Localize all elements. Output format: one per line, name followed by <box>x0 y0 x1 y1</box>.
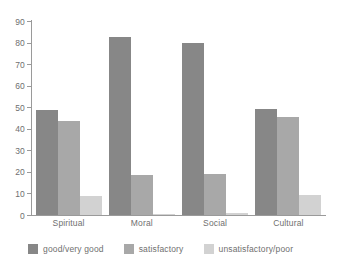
x-axis-line <box>31 215 326 216</box>
bar-group <box>255 21 321 215</box>
bar <box>204 174 226 215</box>
x-axis-label-social: Social <box>179 219 252 228</box>
bar <box>153 214 175 215</box>
legend-item[interactable]: good/very good <box>28 244 104 254</box>
legend-label: unsatisfactory/poor <box>219 245 294 254</box>
y-axis-tick-label: 20 <box>15 168 25 177</box>
bar <box>255 109 277 215</box>
legend-item[interactable]: satisfactory <box>124 244 184 254</box>
y-axis-tick-label: 60 <box>15 82 25 91</box>
legend-item[interactable]: unsatisfactory/poor <box>204 244 294 254</box>
bar-group <box>109 21 175 215</box>
y-axis-tick-label: 40 <box>15 125 25 134</box>
x-axis-label-cultural: Cultural <box>252 219 325 228</box>
x-axis-label-spiritual: Spiritual <box>32 219 105 228</box>
x-axis-label-moral: Moral <box>105 219 178 228</box>
y-axis-tick-label: 50 <box>15 103 25 112</box>
legend-label: satisfactory <box>139 245 184 254</box>
bar <box>80 196 102 215</box>
y-axis-tick-label: 10 <box>15 190 25 199</box>
bar <box>109 37 131 215</box>
bar-chart: 9080706050403020100 SpiritualMoralSocial… <box>0 0 339 270</box>
y-axis-tick-label: 80 <box>15 39 25 48</box>
chart-legend: good/very goodsatisfactoryunsatisfactory… <box>28 244 293 254</box>
y-axis-tick-label: 70 <box>15 60 25 69</box>
y-axis-tick-label: 0 <box>20 211 25 220</box>
legend-swatch-icon <box>204 244 214 254</box>
plot-area <box>32 21 325 215</box>
legend-swatch-icon <box>124 244 134 254</box>
bar-group <box>36 21 102 215</box>
bar <box>36 110 58 215</box>
bar <box>299 195 321 215</box>
bar <box>131 175 153 215</box>
bar <box>182 43 204 215</box>
y-axis-tick-label: 90 <box>15 17 25 26</box>
bar <box>58 121 80 215</box>
bar <box>226 213 248 215</box>
legend-swatch-icon <box>28 244 38 254</box>
y-axis-tick-label: 30 <box>15 147 25 156</box>
bar-group <box>182 21 248 215</box>
bar <box>277 117 299 215</box>
y-axis-tick: 0 <box>27 215 32 216</box>
legend-label: good/very good <box>43 245 104 254</box>
